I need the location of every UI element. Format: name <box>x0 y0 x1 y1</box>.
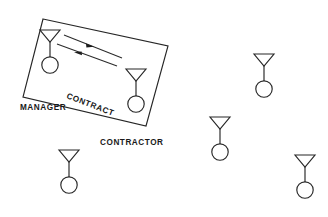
contract-label: CONTRACT <box>65 91 115 117</box>
contractor-label: CONTRACTOR <box>100 138 164 147</box>
contractor-body-circle <box>128 96 144 112</box>
bystander-1-body-circle <box>61 177 77 193</box>
manager-body-circle <box>42 57 58 73</box>
arrowhead-toward-manager <box>86 44 94 48</box>
bystander-4-head-triangle-icon <box>295 155 315 167</box>
bystander-figure-3[interactable] <box>210 117 230 160</box>
bystander-figure-1[interactable] <box>59 150 79 193</box>
bystander-1-head-triangle-icon <box>59 150 79 162</box>
manager-label: MANAGER <box>20 103 66 112</box>
arrowhead-toward-contractor <box>74 51 82 55</box>
contract-diagram: MANAGER CONTRACT CONTRACTOR <box>0 0 328 217</box>
bystander-4-body-circle <box>297 182 313 198</box>
diagram-canvas: MANAGER CONTRACT CONTRACTOR <box>0 0 328 217</box>
contractor-figure[interactable] <box>126 69 146 112</box>
exchange-arrows-group <box>57 35 122 66</box>
bystander-figure-2[interactable] <box>254 54 274 97</box>
bystander-2-head-triangle-icon <box>254 54 274 66</box>
bystander-2-body-circle <box>256 81 272 97</box>
bystander-3-head-triangle-icon <box>210 117 230 129</box>
bystander-3-body-circle <box>212 144 228 160</box>
contractor-head-triangle-icon <box>126 69 146 81</box>
manager-head-triangle-icon <box>40 30 60 42</box>
manager-figure[interactable] <box>40 30 60 73</box>
bystander-figure-4[interactable] <box>295 155 315 198</box>
